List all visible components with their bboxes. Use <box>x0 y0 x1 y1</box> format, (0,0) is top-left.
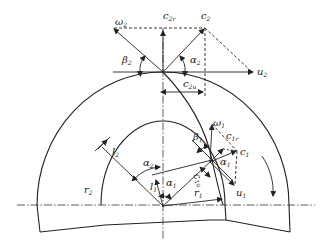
label-l1: l1 <box>150 181 157 193</box>
ray-to-outlet-c2 <box>163 115 210 206</box>
labels: ω2 c2r c2 β2 α2 u2 c2u ω1 β1 c1r c1 α1 c… <box>84 10 267 199</box>
center-rays <box>95 115 222 206</box>
beta2-arc <box>140 56 145 72</box>
rotation-arrow <box>262 156 273 196</box>
label-c2r: c2r <box>163 10 176 22</box>
center-lines <box>17 28 315 240</box>
outer-arc <box>37 72 290 232</box>
l2-perp <box>95 137 110 151</box>
label-beta2: β2 <box>121 54 132 66</box>
c1u-dimension <box>203 170 210 177</box>
label-r2: r2 <box>84 184 93 196</box>
label-r1: r1 <box>194 187 203 199</box>
c1r-side-dashed <box>223 149 237 151</box>
label-c2u: c2u <box>183 78 196 90</box>
label-w1: ω1 <box>213 117 225 129</box>
alpha2-center-arc <box>135 167 160 178</box>
alpha2-arc <box>180 56 185 72</box>
label-alpha1-center: α1 <box>166 177 177 189</box>
label-u1: u1 <box>236 187 246 199</box>
label-w2: ω2 <box>115 16 127 28</box>
label-u2: u2 <box>257 66 267 78</box>
label-c1u: c1u <box>190 171 207 189</box>
w2-vector <box>114 29 163 72</box>
label-c1: c1 <box>240 146 249 158</box>
c2-to-u2-dashed <box>205 28 252 72</box>
c1-to-u1-dashed <box>235 151 237 185</box>
label-alpha2-top: α2 <box>190 54 201 66</box>
label-c2: c2 <box>201 10 211 22</box>
velocity-triangle-diagram: ω2 c2r c2 β2 α2 u2 c2u ω1 β1 c1r c1 α1 c… <box>0 0 325 244</box>
impeller-outline <box>37 72 290 232</box>
label-alpha2-center: α2 <box>143 157 154 169</box>
label-c1r: c1r <box>226 130 239 142</box>
center-point <box>162 205 164 207</box>
bottom-edge <box>40 220 290 232</box>
label-alpha1-right: α1 <box>220 156 231 168</box>
beta1-arc <box>200 146 209 150</box>
